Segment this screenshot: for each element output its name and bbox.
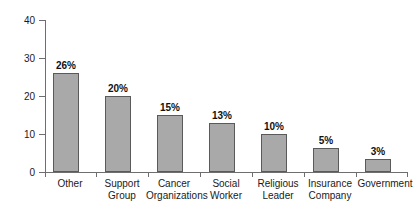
x-axis-line xyxy=(45,172,408,173)
y-tick-label: 20 xyxy=(24,92,35,102)
x-axis-label-religious-leader: Religious Leader xyxy=(252,178,304,202)
bar-religious-leader: 10% xyxy=(261,134,287,172)
bar-value-label: 5% xyxy=(319,136,333,146)
x-axis-label-line: Company xyxy=(302,190,358,202)
x-axis-tick xyxy=(45,173,46,177)
bar-value-label: 15% xyxy=(160,103,180,113)
bar-value-label: 20% xyxy=(108,84,128,94)
x-axis-tick xyxy=(407,173,408,177)
x-axis-label-line: Insurance xyxy=(302,178,358,190)
bar-government: 3% xyxy=(365,159,391,172)
bar-social-worker: 13% xyxy=(209,123,235,172)
x-axis-label-support-group: Support Group xyxy=(96,178,148,202)
plot-area: 26% 20% 15% 13% 10% 5% 3% xyxy=(46,20,408,172)
y-tick-label: 30 xyxy=(24,54,35,64)
bar-support-group: 20% xyxy=(105,96,131,172)
x-axis-tick xyxy=(148,173,149,177)
bar-value-label: 3% xyxy=(371,147,385,157)
x-axis-label-government: Government xyxy=(356,178,414,190)
bar-value-label: 26% xyxy=(56,61,76,71)
x-axis-label-line: Support xyxy=(96,178,148,190)
x-axis-tick xyxy=(200,173,201,177)
bar-insurance-company: 5% xyxy=(313,148,339,172)
x-axis-label-line: Government xyxy=(356,178,414,190)
x-axis-label-line: Organizations xyxy=(146,190,202,202)
x-axis-label-line: Religious xyxy=(252,178,304,190)
bar-other: 26% xyxy=(53,73,79,172)
bar-chart: 40 30 20 10 0 26% 20% 15% 13% xyxy=(0,0,415,212)
bar-value-label: 10% xyxy=(264,122,284,132)
x-axis-tick xyxy=(96,173,97,177)
x-axis-label-line: Cancer xyxy=(146,178,202,190)
x-axis-label-line: Leader xyxy=(252,190,304,202)
x-axis-label-other: Other xyxy=(44,178,96,190)
x-axis-label-line: Worker xyxy=(200,190,252,202)
x-axis-label-line: Group xyxy=(96,190,148,202)
x-axis-label-line: Social xyxy=(200,178,252,190)
x-axis-tick xyxy=(252,173,253,177)
y-tick-label: 0 xyxy=(29,168,35,178)
x-axis-label-line: Other xyxy=(44,178,96,190)
x-axis-label-social-worker: Social Worker xyxy=(200,178,252,202)
y-tick-label: 10 xyxy=(24,130,35,140)
x-axis-label-insurance-company: Insurance Company xyxy=(302,178,358,202)
x-axis-tick xyxy=(304,173,305,177)
y-tick-label: 40 xyxy=(24,16,35,26)
x-axis-label-cancer-organizations: Cancer Organizations xyxy=(146,178,202,202)
bar-cancer-organizations: 15% xyxy=(157,115,183,172)
bar-value-label: 13% xyxy=(212,111,232,121)
x-axis-tick xyxy=(356,173,357,177)
